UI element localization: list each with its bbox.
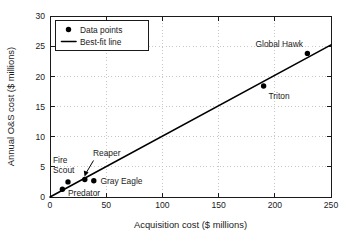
legend[interactable]: Data points Best-fit line	[55, 20, 148, 50]
label-gray-eagle: Gray Eagle	[101, 176, 143, 186]
xtick-label-200: 200	[268, 200, 283, 210]
label-fire-scout-line2: Scout	[53, 165, 75, 175]
ytick-label-15: 15	[35, 102, 45, 112]
ytick-label-10: 10	[35, 132, 45, 142]
xtick-label-250: 250	[324, 200, 339, 210]
ytick-label-20: 20	[35, 72, 45, 82]
chart-figure: 0 50 100 150 200 250 0 5 10 15 20 25 30 …	[0, 0, 352, 246]
ytick-label-5: 5	[40, 162, 45, 172]
legend-marker-data-points	[66, 27, 71, 32]
label-predator: Predator	[68, 188, 100, 198]
xtick-label-150: 150	[211, 200, 226, 210]
data-point-reaper[interactable]	[82, 177, 87, 182]
data-point-gray-eagle[interactable]	[91, 178, 96, 183]
label-global-hawk: Global Hawk	[256, 39, 304, 49]
xtick-label-0: 0	[48, 200, 53, 210]
reaper-arrow-head	[84, 171, 89, 177]
label-reaper: Reaper	[93, 148, 121, 158]
xtick-label-50: 50	[101, 200, 111, 210]
data-point-triton[interactable]	[261, 83, 266, 88]
xtick-label-100: 100	[155, 200, 170, 210]
label-fire-scout-line1: Fire	[53, 155, 68, 165]
scatter-plot[interactable]: 0 50 100 150 200 250 0 5 10 15 20 25 30 …	[0, 0, 352, 246]
ytick-label-30: 30	[35, 11, 45, 21]
data-point-fire-scout[interactable]	[65, 179, 70, 184]
legend-label-best-fit: Best-fit line	[80, 37, 122, 47]
ytick-label-25: 25	[35, 41, 45, 51]
best-fit-line	[50, 45, 331, 197]
label-triton: Triton	[269, 91, 290, 101]
x-axis-title: Acquisition cost ($ millions)	[134, 219, 247, 230]
data-point-global-hawk[interactable]	[305, 51, 310, 56]
ytick-label-0: 0	[40, 192, 45, 202]
data-point-predator[interactable]	[60, 187, 65, 192]
y-axis-title: Annual O&S cost ($ millions)	[5, 47, 16, 166]
legend-label-data-points: Data points	[80, 25, 122, 35]
